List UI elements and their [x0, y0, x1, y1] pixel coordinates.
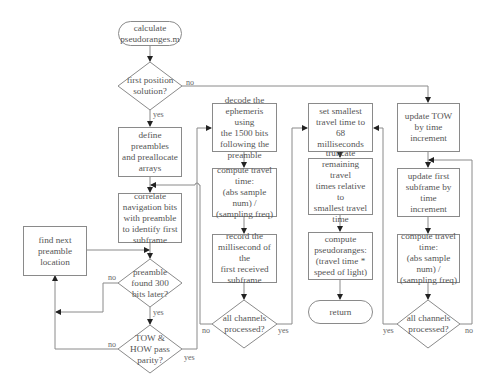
label-all-channels-1-no: no	[202, 326, 210, 335]
label-all-channels-2-no: no	[465, 326, 473, 335]
decision-all-channels-1-text: all channels processed?	[223, 313, 267, 335]
label-all-channels-1-yes: yes	[278, 326, 289, 335]
process-define-preambles: define preambles and preallocate arrays	[118, 127, 182, 177]
process-compute-pseudoranges-text: compute pseudoranges: (travel time * spe…	[314, 234, 367, 278]
process-record-millisecond-text: record the millisecond of the first rece…	[215, 231, 274, 286]
process-set-smallest-travel-time-text: set smallest travel time to 68 milliseco…	[311, 106, 370, 150]
decision-first-position-text: first position solution?	[127, 75, 174, 97]
decision-all-channels-2-text: all channels processed?	[407, 313, 451, 335]
process-update-tow-text: update TOW by time increment	[405, 111, 452, 144]
terminal-return-text: return	[330, 307, 352, 318]
decision-first-position: first position solution?	[118, 62, 182, 110]
process-record-millisecond: record the millisecond of the first rece…	[212, 234, 277, 283]
process-decode-ephemeris: decode the ephemeris using the 1500 bits…	[212, 103, 277, 152]
label-first-position-no: no	[186, 78, 194, 87]
process-update-first-subframe: update first subframe by time increment	[397, 168, 460, 217]
decision-preamble-found-text: preamble found 300 bits later?	[131, 267, 169, 300]
process-find-next-preamble-text: find next preamble location	[38, 235, 72, 268]
label-tow-how-no: no	[108, 340, 116, 349]
decision-tow-how-parity-text: TOW & HOW pass parity?	[130, 333, 170, 366]
process-define-preambles-text: define preambles and preallocate arrays	[121, 130, 179, 174]
process-compute-travel-time-1-text: compute travel time: (abs sample num) / …	[215, 165, 274, 220]
decision-preamble-found: preamble found 300 bits later?	[118, 259, 182, 307]
process-truncate-text: truncate remaining travel times relative…	[311, 148, 370, 225]
decision-tow-how-parity: TOW & HOW pass parity?	[118, 325, 182, 373]
label-preamble-found-no: no	[108, 273, 116, 282]
process-set-smallest-travel-time: set smallest travel time to 68 milliseco…	[308, 103, 373, 152]
label-preamble-found-yes: yes	[153, 308, 164, 317]
process-truncate: truncate remaining travel times relative…	[308, 158, 373, 215]
process-compute-travel-time-2-text: compute travel time: (abs sample num) / …	[400, 231, 457, 286]
process-compute-travel-time-2: compute travel time: (abs sample num) / …	[397, 234, 460, 283]
process-update-first-subframe-text: update first subframe by time increment	[400, 171, 457, 215]
process-compute-pseudoranges: compute pseudoranges: (travel time * spe…	[308, 232, 373, 280]
process-correlate-text: correlate navigation bits with preamble …	[122, 191, 177, 246]
process-correlate: correlate navigation bits with preamble …	[118, 193, 182, 243]
process-update-tow: update TOW by time increment	[397, 103, 460, 152]
process-find-next-preamble: find next preamble location	[23, 226, 87, 276]
decision-all-channels-2: all channels processed?	[397, 300, 460, 348]
label-tow-how-yes: yes	[184, 353, 195, 362]
process-decode-ephemeris-text: decode the ephemeris using the 1500 bits…	[215, 95, 274, 161]
terminal-start-text: calculate pseudoranges.m	[120, 23, 179, 45]
terminal-return: return	[308, 300, 373, 324]
terminal-start: calculate pseudoranges.m	[118, 21, 182, 46]
label-first-position-yes: yes	[153, 110, 164, 119]
label-all-channels-2-yes: yes	[383, 326, 394, 335]
decision-all-channels-1: all channels processed?	[212, 300, 277, 348]
process-compute-travel-time-1: compute travel time: (abs sample num) / …	[212, 168, 277, 217]
